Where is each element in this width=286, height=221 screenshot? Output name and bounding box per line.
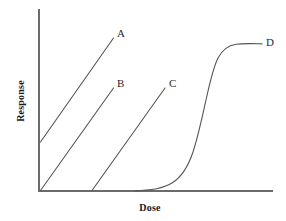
dose-response-figure: A B C D Dose Response (0, 0, 286, 221)
x-axis-title: Dose (139, 202, 161, 213)
plot-canvas: A B C D Dose Response (0, 0, 286, 221)
curve-label-a: A (117, 27, 125, 39)
curve-label-c: C (169, 77, 176, 89)
curve-label-d: D (266, 36, 274, 48)
curve-label-b: B (117, 77, 124, 89)
y-axis-title: Response (15, 80, 26, 122)
